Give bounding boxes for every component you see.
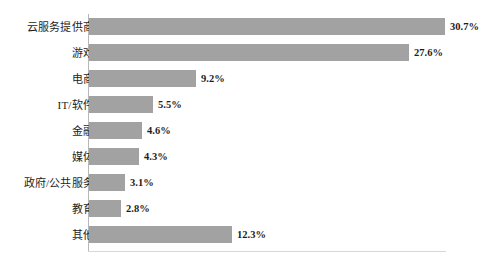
bar[interactable] <box>89 122 142 139</box>
category-label: 媒体 <box>8 144 94 170</box>
bar[interactable] <box>89 18 445 35</box>
bar-row: 其他 12.3% <box>0 222 488 248</box>
bar-row: 云服务提供商 30.7% <box>0 14 488 40</box>
bar-row: 政府/公共服务 3.1% <box>0 170 488 196</box>
category-label: IT/软件 <box>8 92 94 118</box>
bar-value-label: 3.1% <box>130 170 154 196</box>
bar-row: 游戏 27.6% <box>0 40 488 66</box>
category-label: 教育 <box>8 196 94 222</box>
bar-row: 电商 9.2% <box>0 66 488 92</box>
bar-value-label: 9.2% <box>201 66 225 92</box>
category-label: 政府/公共服务 <box>8 170 94 196</box>
category-label: 其他 <box>8 222 94 248</box>
category-label: 金融 <box>8 118 94 144</box>
category-label: 电商 <box>8 66 94 92</box>
bar[interactable] <box>89 70 196 87</box>
bar[interactable] <box>89 148 139 165</box>
bar[interactable] <box>89 96 153 113</box>
bar-value-label: 5.5% <box>158 92 182 118</box>
bar-value-label: 4.6% <box>147 118 171 144</box>
bar-value-label: 30.7% <box>450 14 479 40</box>
bar[interactable] <box>89 174 125 191</box>
plot-area: 云服务提供商 30.7% 游戏 27.6% 电商 9.2% IT/软件 5.5%… <box>0 0 488 265</box>
bar-row: 媒体 4.3% <box>0 144 488 170</box>
bar-value-label: 4.3% <box>144 144 168 170</box>
category-label: 游戏 <box>8 40 94 66</box>
bar[interactable] <box>89 226 232 243</box>
bar-chart: 云服务提供商 30.7% 游戏 27.6% 电商 9.2% IT/软件 5.5%… <box>0 0 488 265</box>
bar-row: 教育 2.8% <box>0 196 488 222</box>
bar[interactable] <box>89 200 121 217</box>
category-label: 云服务提供商 <box>8 14 94 40</box>
bar-value-label: 12.3% <box>237 222 266 248</box>
bar-row: 金融 4.6% <box>0 118 488 144</box>
x-axis-line <box>88 251 446 252</box>
bar-value-label: 2.8% <box>126 196 150 222</box>
bar-row: IT/软件 5.5% <box>0 92 488 118</box>
bar-value-label: 27.6% <box>414 40 443 66</box>
bar[interactable] <box>89 44 409 61</box>
